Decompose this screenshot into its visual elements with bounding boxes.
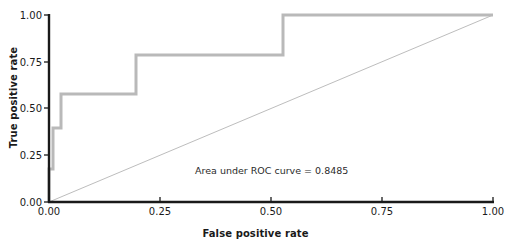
x-tick-label-0.75: 0.75 (371, 206, 393, 217)
x-tick-label-0.50: 0.50 (260, 206, 282, 217)
roc-plot-canvas (0, 0, 511, 247)
auc-annotation-text: Area under ROC curve = 0.8485 (195, 165, 348, 176)
y-axis-title: True positive rate (8, 38, 19, 158)
x-tick-label-0.00: 0.00 (38, 206, 60, 217)
x-axis-title: False positive rate (0, 228, 511, 239)
x-tick-label-1.00: 1.00 (482, 206, 504, 217)
x-tick-label-0.25: 0.25 (149, 206, 171, 217)
y-tick-label-1.00: 1.00 (8, 10, 42, 21)
roc-chart-figure: 1.00 0.75 0.50 0.25 0.00 0.00 0.25 0.50 … (0, 0, 511, 247)
